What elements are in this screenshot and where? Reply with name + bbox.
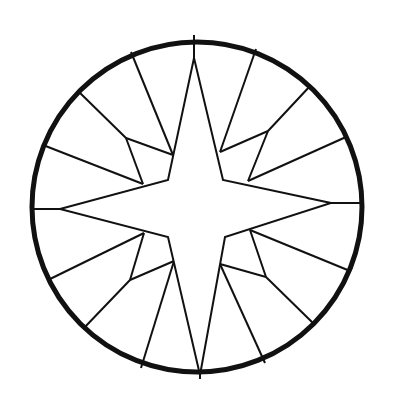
spoke-line — [83, 261, 174, 329]
spoke-line — [220, 264, 266, 277]
spoke-line — [78, 91, 173, 155]
spoke-line — [220, 264, 265, 363]
spoke-line — [43, 145, 143, 184]
spoke-line — [131, 52, 173, 155]
spoke-line — [48, 233, 144, 280]
spoke-line — [250, 230, 350, 271]
spoke-line — [130, 233, 144, 280]
spoke-line — [126, 138, 143, 184]
spoke-line — [141, 261, 174, 368]
eight-point-star — [60, 58, 331, 375]
compass-star-figure: compass-star-in-circle — [0, 0, 395, 411]
compass-star-svg — [0, 0, 395, 411]
spoke-line — [220, 49, 256, 152]
